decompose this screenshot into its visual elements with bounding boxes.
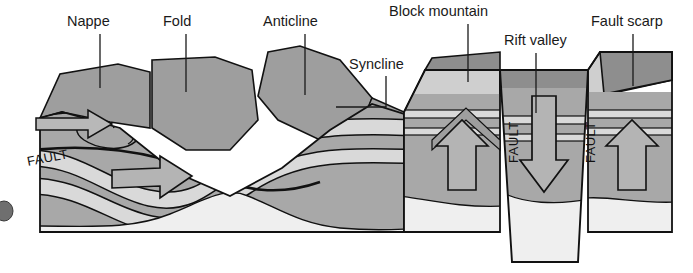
rift-valley-group (498, 70, 592, 268)
label-block-mountain: Block mountain (389, 3, 488, 19)
geology-block-diagram: Nappe Fold Anticline Syncline Block moun… (0, 0, 693, 273)
fault-label-right: FAULT (583, 122, 598, 164)
fold-top-face (152, 57, 258, 150)
label-nappe: Nappe (67, 13, 110, 29)
fault-label-left: FAULT (506, 122, 521, 164)
graben-floor-top (500, 70, 588, 90)
label-rift-valley: Rift valley (504, 32, 568, 48)
label-fault-scarp: Fault scarp (591, 13, 663, 29)
label-fold: Fold (163, 13, 191, 29)
diagram-canvas: Nappe Fold Anticline Syncline Block moun… (0, 0, 693, 273)
edge-dot-artifact (0, 201, 13, 221)
fault-scarp-group (586, 52, 676, 240)
label-syncline: Syncline (349, 56, 404, 72)
label-anticline: Anticline (263, 13, 318, 29)
